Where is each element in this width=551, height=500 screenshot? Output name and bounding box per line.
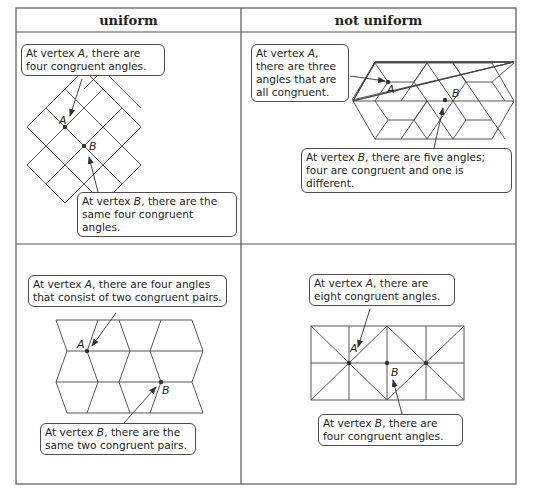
callout-bottom-left-vertex-b: At vertex B, there are the same two cong… bbox=[40, 423, 196, 455]
callout-top-left-vertex-b: At vertex B, there are the same four con… bbox=[77, 192, 237, 237]
column-header-not-uniform: not uniform bbox=[241, 8, 516, 32]
callout-top-right-vertex-b: At vertex B, there are five angles; four… bbox=[301, 148, 512, 193]
callout-top-left-vertex-a: At vertex A, there are four congruent an… bbox=[21, 44, 165, 76]
callout-bottom-right-vertex-a: At vertex A, there are eight congruent a… bbox=[309, 274, 455, 306]
tiling-comparison-table: uniform not uniform bbox=[0, 0, 551, 500]
callout-bottom-left-vertex-a: At vertex A, there are four angles that … bbox=[28, 275, 227, 307]
callout-top-right-vertex-a: At vertex A, there are three angles that… bbox=[251, 44, 349, 102]
callout-bottom-right-vertex-b: At vertex B, there are four congruent an… bbox=[318, 414, 463, 446]
column-header-uniform: uniform bbox=[16, 8, 241, 32]
